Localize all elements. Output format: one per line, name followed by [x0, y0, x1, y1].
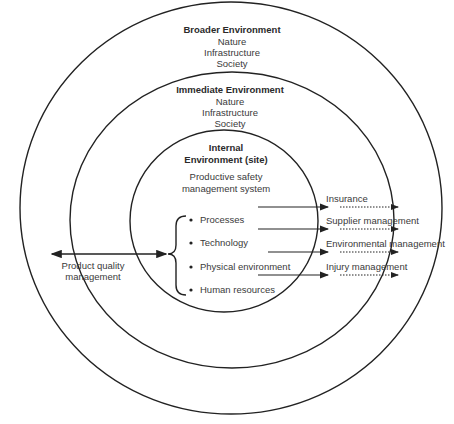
bullet-technology: Technology — [200, 237, 248, 249]
bullet-dot — [189, 265, 192, 268]
immediate-environment-title: Immediate Environment — [176, 84, 284, 96]
internal-environment-title: Environment (site) — [184, 154, 267, 166]
bullet-dot — [189, 218, 192, 221]
bullet-physical-environment: Physical environment — [200, 261, 290, 273]
output-injury-management: Injury management — [326, 261, 407, 273]
bullet-dot — [189, 288, 192, 291]
broader-environment-title: Broader Environment — [183, 24, 280, 36]
internal-environment-subtitle: management system — [182, 183, 270, 195]
product-quality-label: management — [65, 271, 120, 283]
immediate-item: Society — [214, 118, 245, 130]
output-insurance: Insurance — [326, 193, 368, 205]
bullet-processes: Processes — [200, 214, 244, 226]
bullet-brace — [168, 216, 186, 295]
internal-environment-subtitle: Productive safety — [190, 171, 263, 183]
broader-item: Society — [216, 58, 247, 70]
bullet-dot — [189, 241, 192, 244]
internal-environment-title: Internal — [209, 142, 243, 154]
output-environmental-management: Environmental management — [326, 238, 445, 250]
bullet-human-resources: Human resources — [200, 284, 275, 296]
output-supplier-management: Supplier management — [326, 215, 419, 227]
